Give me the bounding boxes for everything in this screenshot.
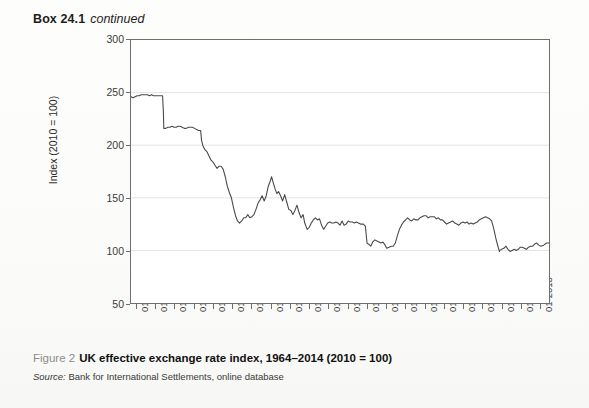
x-tick-mark (405, 304, 406, 309)
x-tick-mark (136, 304, 137, 309)
x-tick-mark (386, 304, 387, 309)
y-axis-title: Index (2010 = 100) (47, 70, 59, 210)
box-continued-label: continued (90, 12, 144, 26)
x-tick-mark (271, 304, 272, 309)
x-tick-mark (251, 304, 252, 309)
y-tick-mark (126, 304, 130, 305)
x-tick-mark (502, 304, 503, 309)
x-tick-mark (521, 304, 522, 309)
x-tick-mark (155, 304, 156, 309)
x-tick-mark (425, 304, 426, 309)
y-tick-label: 100 (96, 246, 124, 257)
figure-title: UK effective exchange rate index, 1964–2… (79, 352, 392, 364)
y-tick-label: 50 (96, 299, 124, 310)
figure-number: Figure 2 (33, 352, 75, 364)
x-tick-mark (309, 304, 310, 309)
x-tick-mark (194, 304, 195, 309)
x-tick-mark (348, 304, 349, 309)
y-tick-label: 250 (96, 87, 124, 98)
y-tick-label: 200 (96, 140, 124, 151)
x-tick-mark (232, 304, 233, 309)
x-tick-mark (482, 304, 483, 309)
x-tick-mark (328, 304, 329, 309)
box-number-label: Box 24.1 (33, 12, 85, 26)
source-label: Source: (33, 371, 66, 382)
source-text: Bank for International Settlements, onli… (68, 371, 283, 382)
y-tick-label: 300 (96, 34, 124, 45)
x-tick-mark (213, 304, 214, 309)
series-line-uk-eer (131, 40, 549, 303)
y-tick-label: 150 (96, 193, 124, 204)
x-tick-mark (174, 304, 175, 309)
x-tick-mark (290, 304, 291, 309)
x-tick-mark (444, 304, 445, 309)
figure-source: Source: Bank for International Settlemen… (33, 371, 573, 382)
x-tick-mark (540, 304, 541, 309)
figure-caption: Figure 2UK effective exchange rate index… (33, 352, 573, 364)
box-header: Box 24.1continued (33, 12, 144, 26)
figure-chart-area: Index (2010 = 100) 50100150200250300 01-… (0, 30, 589, 330)
figure-caption-block: Figure 2UK effective exchange rate index… (33, 352, 573, 382)
plot-area (130, 39, 550, 304)
x-tick-mark (367, 304, 368, 309)
x-tick-mark (463, 304, 464, 309)
